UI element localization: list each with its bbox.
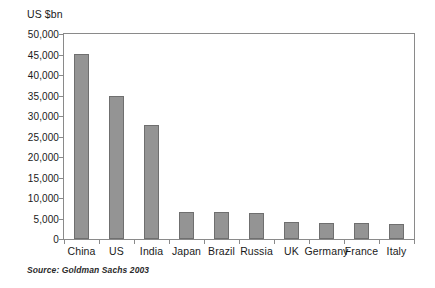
x-axis-tick-label: China (68, 245, 96, 257)
bar (179, 212, 194, 239)
y-axis-tick-label: 40,000 (28, 70, 59, 81)
bar (389, 224, 404, 239)
x-axis-tick-label: Germany (305, 245, 349, 257)
y-axis-tick-label: 35,000 (28, 90, 59, 101)
x-axis-tick-mark (414, 240, 415, 244)
x-axis-tick-label: India (140, 245, 163, 257)
y-axis-tick-label: 15,000 (28, 172, 59, 183)
y-axis-tick-label: 50,000 (28, 29, 59, 40)
y-axis-tick-label: 10,000 (28, 193, 59, 204)
x-axis-tick-mark (169, 240, 170, 244)
y-axis-tick-labels: 50,00045,00040,00035,00030,00025,00020,0… (0, 33, 59, 240)
x-axis-tick-label: Brazil (208, 245, 235, 257)
x-axis-tick-mark (134, 240, 135, 244)
y-axis-tick-mark (59, 137, 63, 138)
x-axis-tick-mark (99, 240, 100, 244)
y-axis-tick-mark (59, 75, 63, 76)
y-axis-tick-mark (59, 55, 63, 56)
y-axis-title: US $bn (27, 8, 63, 20)
y-axis-tick-mark (59, 157, 63, 158)
x-axis-tick-mark (309, 240, 310, 244)
x-axis-tick-mark (239, 240, 240, 244)
bar (144, 125, 159, 239)
x-axis-tick-label: UK (284, 245, 299, 257)
x-axis-tick-mark (64, 240, 65, 244)
y-axis-tick-mark (59, 116, 63, 117)
y-axis-tick-label: 30,000 (28, 111, 59, 122)
y-axis-tick-mark (59, 178, 63, 179)
bar (249, 213, 264, 239)
x-axis-tick-mark (379, 240, 380, 244)
y-axis-tick-mark (59, 34, 63, 35)
y-axis-tick-mark (59, 198, 63, 199)
bar-series (64, 34, 414, 239)
y-axis-tick-label: 25,000 (28, 131, 59, 142)
y-axis-tick-label: 20,000 (28, 152, 59, 163)
chart-figure: US $bn 50,00045,00040,00035,00030,00025,… (0, 0, 435, 288)
x-axis-tick-labels: ChinaUSIndiaJapanBrazilRussiaUKGermanyFr… (64, 245, 414, 261)
bar (354, 223, 369, 239)
y-axis-tick-label: 5,000 (33, 213, 59, 224)
bar (109, 96, 124, 240)
y-axis-tick-mark (59, 219, 63, 220)
x-axis-tick-label: US (109, 245, 124, 257)
y-axis-tick-mark (59, 96, 63, 97)
bar (319, 223, 334, 239)
bar (284, 222, 299, 239)
bar (214, 212, 229, 239)
source-note: Source: Goldman Sachs 2003 (27, 265, 149, 275)
x-axis-tick-label: Russia (240, 245, 273, 257)
bar (74, 54, 89, 239)
x-axis-tick-mark (274, 240, 275, 244)
x-axis-tick-mark (204, 240, 205, 244)
x-axis-tick-label: France (345, 245, 378, 257)
x-axis-tick-label: Japan (172, 245, 201, 257)
y-axis-tick-label: 45,000 (28, 49, 59, 60)
x-axis-tick-mark (344, 240, 345, 244)
x-axis-tick-label: Italy (387, 245, 407, 257)
y-axis-tick-mark (59, 239, 63, 240)
